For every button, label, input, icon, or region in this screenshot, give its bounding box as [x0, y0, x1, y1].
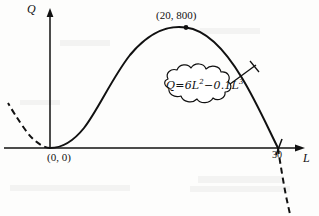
formula-term1-coef: 6: [185, 79, 192, 92]
formula-equals: =: [175, 79, 184, 92]
y-axis: [47, 8, 54, 148]
scan-artifacts: [10, 28, 290, 192]
formula-term2-exponent: 3: [239, 78, 244, 86]
x-axis-label: L: [303, 152, 310, 164]
peak-coordinate-label: (20, 800): [156, 10, 196, 21]
production-function-chart: [0, 0, 319, 216]
formula-term2-coef: 0.1: [213, 79, 231, 92]
origin-coordinate-label: (0, 0): [47, 152, 71, 163]
x-axis-tick-label-30: 30: [272, 150, 282, 160]
formula-term2-var: L: [232, 79, 240, 92]
formula-lead: Q: [166, 79, 175, 92]
curve-dashed-left: [8, 103, 50, 148]
peak-marker-dot: [184, 25, 189, 30]
formula-annotation: Q=6L2−0.1L3: [166, 79, 244, 91]
y-axis-label: Q: [27, 3, 36, 15]
